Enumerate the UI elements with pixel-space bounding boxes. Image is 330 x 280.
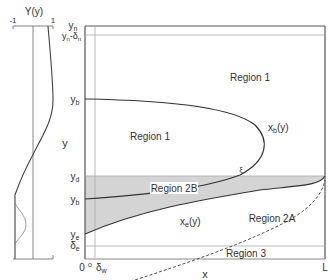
profile-title: Y(y) bbox=[25, 6, 43, 17]
tick-delta-w: δw bbox=[96, 262, 108, 274]
tick-L: L bbox=[322, 262, 328, 273]
tick-yb-prime: yb bbox=[71, 94, 80, 106]
region-2b: Region 2B bbox=[151, 183, 198, 194]
region-2a: Region 2A bbox=[249, 213, 296, 224]
profile-tick-pos1: 1 bbox=[51, 16, 56, 25]
xi-label: ξ bbox=[239, 165, 243, 174]
profile-bump bbox=[15, 203, 26, 244]
region-3: Region 3 bbox=[226, 248, 266, 259]
profile-plot: Y(y) -1 1 y bbox=[9, 6, 68, 259]
tick-yd: yd bbox=[71, 171, 80, 183]
x-axis-label: x bbox=[202, 268, 208, 280]
tick-yn-delta: yn-δn bbox=[62, 31, 81, 42]
xe-label: xe(y) bbox=[180, 216, 201, 228]
main-plot: yn yn-δn yb yd yb ye δe 0 o δw L x Regio… bbox=[62, 20, 328, 280]
region-1-mid: Region 1 bbox=[130, 131, 170, 142]
tick-yb: yb bbox=[71, 194, 80, 206]
profile-curve bbox=[15, 26, 53, 259]
xb-label: xb(y) bbox=[268, 122, 289, 134]
region-1-top: Region 1 bbox=[230, 72, 270, 83]
tick-origin-degree: o bbox=[88, 261, 92, 268]
y-axis-label: y bbox=[62, 137, 68, 149]
tick-delta-e: δe bbox=[70, 240, 80, 252]
tick-origin: 0 bbox=[79, 262, 85, 273]
diagram-canvas: Y(y) -1 1 y bbox=[0, 0, 330, 280]
profile-tick-neg1: -1 bbox=[9, 16, 17, 25]
